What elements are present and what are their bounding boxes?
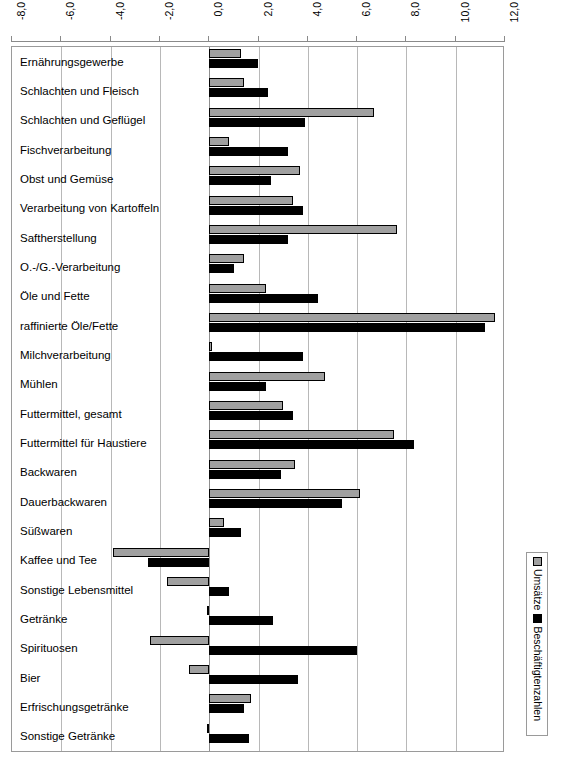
x-tick-mark bbox=[405, 36, 406, 42]
legend-entry: Beschäftigtenzahlen bbox=[533, 614, 544, 721]
bar-row: raffinierte Öle/Fette bbox=[12, 311, 503, 340]
category-label: Süßwaren bbox=[20, 524, 72, 537]
bar-beschaeftigtenzahlen bbox=[209, 587, 229, 596]
x-tick-label: -6,0 bbox=[65, 2, 76, 36]
bar-umsaetze bbox=[209, 254, 244, 263]
bar-row: Erfrischungsgetränke bbox=[12, 692, 503, 721]
category-label: O.-/G.-Verarbeitung bbox=[20, 260, 120, 273]
bar-row: Saftherstellung bbox=[12, 223, 503, 252]
bar-beschaeftigtenzahlen bbox=[209, 206, 303, 215]
bar-umsaetze bbox=[150, 636, 209, 645]
bar-umsaetze bbox=[207, 724, 209, 733]
category-label: Verarbeitung von Kartoffeln bbox=[20, 202, 159, 215]
bar-umsaetze bbox=[209, 166, 300, 175]
bar-beschaeftigtenzahlen bbox=[209, 352, 303, 361]
bar-row: Kaffee und Tee bbox=[12, 546, 503, 575]
bar-umsaetze bbox=[209, 518, 224, 527]
category-label: Schlachten und Fleisch bbox=[20, 84, 139, 97]
bar-umsaetze bbox=[209, 225, 396, 234]
bar-row: Süßwaren bbox=[12, 516, 503, 545]
bar-row: Fischverarbeitung bbox=[12, 135, 503, 164]
bar-beschaeftigtenzahlen bbox=[209, 88, 268, 97]
bar-row: Spirituosen bbox=[12, 634, 503, 663]
bar-beschaeftigtenzahlen bbox=[209, 147, 288, 156]
bar-beschaeftigtenzahlen bbox=[209, 235, 288, 244]
category-label: Backwaren bbox=[20, 466, 77, 479]
bar-beschaeftigtenzahlen bbox=[209, 616, 273, 625]
x-tick-label: -4,0 bbox=[115, 2, 126, 36]
category-label: Milchverarbeitung bbox=[20, 348, 111, 361]
category-label: Dauerbackwaren bbox=[20, 495, 107, 508]
bar-row: Futtermittel für Haustiere bbox=[12, 428, 503, 457]
legend-entries: UmsätzeBeschäftigtenzahlen bbox=[527, 553, 549, 737]
category-label: Kaffee und Tee bbox=[20, 554, 97, 567]
bar-beschaeftigtenzahlen bbox=[209, 323, 485, 332]
bar-row: Schlachten und Fleisch bbox=[12, 76, 503, 105]
bar-umsaetze bbox=[189, 665, 209, 674]
x-tick-mark bbox=[110, 36, 111, 42]
bar-row: Verarbeitung von Kartoffeln bbox=[12, 194, 503, 223]
category-label: raffinierte Öle/Fette bbox=[20, 319, 118, 332]
bar-beschaeftigtenzahlen bbox=[209, 118, 305, 127]
x-tick-label: 6,0 bbox=[361, 2, 372, 36]
bar-beschaeftigtenzahlen bbox=[209, 411, 293, 420]
category-label: Futtermittel für Haustiere bbox=[20, 436, 147, 449]
bar-row: Bier bbox=[12, 663, 503, 692]
bar-row: Backwaren bbox=[12, 458, 503, 487]
x-tick-mark bbox=[258, 36, 259, 42]
bar-beschaeftigtenzahlen bbox=[209, 646, 357, 655]
x-tick-label: 2,0 bbox=[263, 2, 274, 36]
bar-umsaetze bbox=[209, 694, 251, 703]
category-label: Fischverarbeitung bbox=[20, 143, 111, 156]
legend-entry: Umsätze bbox=[533, 557, 544, 610]
legend-label: Umsätze bbox=[533, 569, 544, 610]
bar-row: Getränke bbox=[12, 604, 503, 633]
bar-umsaetze bbox=[209, 489, 359, 498]
bar-row: Sonstige Lebensmittel bbox=[12, 575, 503, 604]
category-label: Erfrischungsgetränke bbox=[20, 700, 129, 713]
bar-umsaetze bbox=[209, 49, 241, 58]
legend-label: Beschäftigtenzahlen bbox=[533, 626, 544, 721]
x-axis: -8,0-6,0-4,0-2,00,02,04,06,08,010,012,0 bbox=[0, 0, 569, 46]
x-tick-mark bbox=[356, 36, 357, 42]
bar-chart: -8,0-6,0-4,0-2,00,02,04,06,08,010,012,0 … bbox=[0, 0, 569, 769]
bar-umsaetze bbox=[207, 606, 209, 615]
category-label: Öle und Fette bbox=[20, 290, 90, 303]
bar-umsaetze bbox=[209, 78, 244, 87]
category-label: Schlachten und Geflügel bbox=[20, 114, 145, 127]
bar-beschaeftigtenzahlen bbox=[209, 675, 298, 684]
x-tick-label: 10,0 bbox=[460, 2, 471, 36]
x-tick-mark bbox=[60, 36, 61, 42]
bar-beschaeftigtenzahlen bbox=[209, 59, 258, 68]
bar-beschaeftigtenzahlen bbox=[209, 264, 234, 273]
category-label: Sonstige Lebensmittel bbox=[20, 583, 133, 596]
bar-umsaetze bbox=[209, 108, 374, 117]
bar-row: Mühlen bbox=[12, 370, 503, 399]
category-label: Saftherstellung bbox=[20, 231, 97, 244]
x-tick-mark bbox=[504, 36, 505, 42]
x-tick-mark bbox=[159, 36, 160, 42]
bar-row: Obst und Gemüse bbox=[12, 164, 503, 193]
bar-beschaeftigtenzahlen bbox=[209, 470, 280, 479]
bar-umsaetze bbox=[209, 137, 229, 146]
bar-umsaetze bbox=[209, 196, 293, 205]
category-label: Getränke bbox=[20, 612, 67, 625]
plot-area: ErnährungsgewerbeSchlachten und FleischS… bbox=[11, 46, 504, 752]
bar-umsaetze bbox=[209, 460, 295, 469]
bar-row: Ernährungsgewerbe bbox=[12, 47, 503, 76]
bar-beschaeftigtenzahlen bbox=[209, 382, 266, 391]
category-label: Obst und Gemüse bbox=[20, 172, 113, 185]
x-tick-label: 8,0 bbox=[410, 2, 421, 36]
bar-row: Öle und Fette bbox=[12, 282, 503, 311]
bar-row: Dauerbackwaren bbox=[12, 487, 503, 516]
legend-swatch-gray bbox=[534, 557, 543, 566]
category-label: Ernährungsgewerbe bbox=[20, 55, 124, 68]
bar-beschaeftigtenzahlen bbox=[209, 704, 244, 713]
bar-row: O.-/G.-Verarbeitung bbox=[12, 252, 503, 281]
x-tick-label: 12,0 bbox=[509, 2, 520, 36]
bar-row: Milchverarbeitung bbox=[12, 340, 503, 369]
bar-rows: ErnährungsgewerbeSchlachten und FleischS… bbox=[12, 47, 503, 751]
bar-umsaetze bbox=[209, 430, 394, 439]
bar-umsaetze bbox=[209, 342, 211, 351]
bar-beschaeftigtenzahlen bbox=[148, 558, 210, 567]
